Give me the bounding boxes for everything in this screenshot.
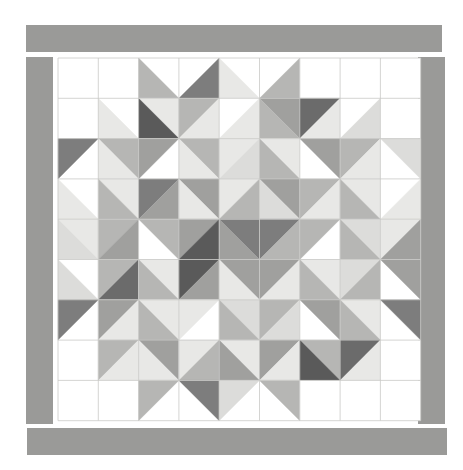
quilt-cell-r9-c8: [340, 380, 380, 420]
quilt-cell-r2-c4: [179, 98, 219, 138]
border-bar-left: [26, 57, 53, 424]
quilt-cell-r2-c3: [139, 98, 179, 138]
quilt-cell-r3-c7: [300, 139, 340, 179]
border-bar-top: [26, 25, 442, 52]
quilt-cell-r5-c5: [219, 219, 259, 259]
quilt-cell-r3-c4: [179, 139, 219, 179]
quilt-cell-r6-c6: [260, 260, 300, 300]
quilt-artwork: [0, 0, 463, 470]
quilt-cell-r7-c4: [179, 300, 219, 340]
quilt-cell-r5-c2: [98, 219, 138, 259]
quilt-cell-r7-c9: [380, 300, 420, 340]
quilt-cell-r5-c7: [300, 219, 340, 259]
quilt-cell-r8-c7: [300, 340, 340, 380]
quilt-cell-r9-c5: [219, 380, 259, 420]
quilt-cell-r4-c3: [139, 179, 179, 219]
quilt-cell-r4-c9: [380, 179, 420, 219]
quilt-cell-r1-c3: [139, 58, 179, 98]
quilt-cell-r4-c6: [260, 179, 300, 219]
cell-base: [98, 58, 138, 98]
quilt-cell-r6-c4: [179, 260, 219, 300]
cell-base: [98, 380, 138, 420]
quilt-cell-r2-c1: [58, 98, 98, 138]
quilt-cell-r6-c9: [380, 260, 420, 300]
quilt-cell-r9-c9: [380, 380, 420, 420]
quilt-cell-r4-c4: [179, 179, 219, 219]
quilt-cell-r9-c1: [58, 380, 98, 420]
quilt-cell-r3-c2: [98, 139, 138, 179]
quilt-cell-r1-c9: [380, 58, 420, 98]
quilt-cell-r7-c1: [58, 300, 98, 340]
quilt-cell-r8-c5: [219, 340, 259, 380]
quilt-cell-r1-c1: [58, 58, 98, 98]
quilt-cell-r6-c3: [139, 260, 179, 300]
quilt-cell-r3-c1: [58, 139, 98, 179]
quilt-cell-r5-c1: [58, 219, 98, 259]
cell-base: [340, 380, 380, 420]
quilt-cell-r5-c8: [340, 219, 380, 259]
quilt-canvas: [0, 0, 463, 470]
quilt-cell-r8-c1: [58, 340, 98, 380]
quilt-cell-r6-c7: [300, 260, 340, 300]
quilt-cell-r2-c7: [300, 98, 340, 138]
quilt-cell-r6-c1: [58, 260, 98, 300]
quilt-cell-r9-c6: [260, 380, 300, 420]
quilt-cell-r3-c8: [340, 139, 380, 179]
quilt-cell-r7-c3: [139, 300, 179, 340]
quilt-cell-r7-c6: [260, 300, 300, 340]
quilt-cell-r3-c3: [139, 139, 179, 179]
quilt-cell-r1-c7: [300, 58, 340, 98]
quilt-cell-r8-c2: [98, 340, 138, 380]
quilt-cell-r4-c8: [340, 179, 380, 219]
quilt-cell-r2-c2: [98, 98, 138, 138]
quilt-cell-r7-c2: [98, 300, 138, 340]
quilt-cell-r8-c9: [380, 340, 420, 380]
quilt-cell-r4-c1: [58, 179, 98, 219]
quilt-cell-r1-c5: [219, 58, 259, 98]
quilt-cell-r9-c3: [139, 380, 179, 420]
cell-base: [300, 380, 340, 420]
quilt-cell-r2-c5: [219, 98, 259, 138]
quilt-cell-r1-c6: [260, 58, 300, 98]
quilt-cell-r1-c2: [98, 58, 138, 98]
quilt-cell-r9-c4: [179, 380, 219, 420]
quilt-cell-r3-c9: [380, 139, 420, 179]
quilt-cell-r1-c8: [340, 58, 380, 98]
cell-base: [58, 58, 98, 98]
quilt-cell-r4-c2: [98, 179, 138, 219]
quilt-cell-r8-c4: [179, 340, 219, 380]
cell-base: [300, 58, 340, 98]
quilt-cell-r6-c2: [98, 260, 138, 300]
quilt-cell-r1-c4: [179, 58, 219, 98]
border-bar-bottom: [27, 428, 447, 455]
quilt-cell-group: [58, 58, 421, 421]
cell-base: [58, 98, 98, 138]
quilt-cell-r9-c2: [98, 380, 138, 420]
quilt-cell-r7-c7: [300, 300, 340, 340]
cell-base: [380, 380, 420, 420]
quilt-cell-r7-c5: [219, 300, 259, 340]
quilt-cell-r8-c3: [139, 340, 179, 380]
quilt-cell-r2-c6: [260, 98, 300, 138]
quilt-cell-r2-c9: [380, 98, 420, 138]
cell-base: [380, 98, 420, 138]
quilt-cell-r2-c8: [340, 98, 380, 138]
cell-base: [58, 340, 98, 380]
border-bar-right: [418, 57, 445, 424]
cell-base: [58, 380, 98, 420]
quilt-cell-r8-c6: [260, 340, 300, 380]
quilt-cell-r4-c5: [219, 179, 259, 219]
quilt-cell-r6-c5: [219, 260, 259, 300]
cell-base: [380, 340, 420, 380]
quilt-cell-r3-c6: [260, 139, 300, 179]
cell-base: [340, 58, 380, 98]
quilt-cell-r3-c5: [219, 139, 259, 179]
quilt-cell-r5-c9: [380, 219, 420, 259]
quilt-cell-r5-c3: [139, 219, 179, 259]
quilt-cell-r5-c6: [260, 219, 300, 259]
quilt-cell-r7-c8: [340, 300, 380, 340]
quilt-cell-r4-c7: [300, 179, 340, 219]
quilt-cell-r8-c8: [340, 340, 380, 380]
cell-base: [380, 58, 420, 98]
quilt-cell-r6-c8: [340, 260, 380, 300]
